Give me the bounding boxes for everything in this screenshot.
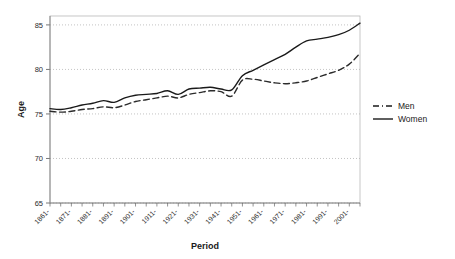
x-axis-tick-label: 1971-: [268, 207, 286, 225]
x-axis-tick-label: 2001-: [332, 207, 350, 225]
x-axis-tick-label: 1911-: [140, 207, 158, 225]
x-axis-tick-label: 1891-: [97, 207, 115, 225]
y-axis-tick-label: 85: [35, 21, 43, 30]
x-axis-tick-label: 1861-: [33, 207, 51, 225]
x-axis-tick-label: 1901-: [119, 207, 137, 225]
x-axis-tick-label: 1871-: [54, 207, 72, 225]
x-axis-tick-label: 1931-: [183, 207, 201, 225]
y-axis-tick-label: 80: [35, 65, 43, 74]
x-axis-tick-label: 1951-: [226, 207, 244, 225]
legend-label-women: Women: [398, 114, 427, 124]
line-chart: 65707580851861-1871-1881-1891-1901-1911-…: [0, 0, 455, 259]
x-axis-title: Period: [191, 241, 219, 251]
y-axis-tick-label: 70: [35, 154, 43, 163]
y-axis-title: Age: [16, 101, 26, 118]
y-axis-tick-label: 75: [35, 110, 43, 119]
plot-area-border: [50, 16, 360, 203]
y-axis-tick-label: 65: [35, 199, 43, 208]
x-axis-tick-label: 1991-: [311, 207, 329, 225]
x-axis-tick-label: 1881-: [76, 207, 94, 225]
x-axis-tick-label: 1941-: [204, 207, 222, 225]
x-axis-tick-label: 1961-: [247, 207, 265, 225]
x-axis-tick-label: 1921-: [161, 207, 179, 225]
legend-label-men: Men: [398, 101, 415, 111]
chart-canvas: 65707580851861-1871-1881-1891-1901-1911-…: [0, 0, 455, 259]
x-axis-tick-label: 1981-: [290, 207, 308, 225]
